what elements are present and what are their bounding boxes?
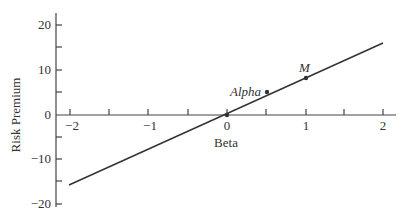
y-tick-label: 0 [45, 107, 52, 122]
x-axis-label: Beta [214, 135, 238, 150]
x-tick-label: −2 [65, 118, 79, 133]
y-tick-label: 20 [38, 17, 51, 32]
alpha-point [265, 90, 269, 94]
y-tick-label: 10 [38, 62, 51, 77]
market-label: M [298, 60, 311, 75]
x-tick-label: 0 [224, 118, 231, 133]
x-tick-label: 1 [303, 118, 310, 133]
y-tick-label: −10 [31, 151, 51, 166]
y-axis-label: Risk Premium [8, 78, 23, 153]
origin-point [225, 113, 229, 117]
alpha-label: Alpha [229, 84, 262, 99]
chart: Alpha M 20 10 0 −10 −20 −2 −1 0 1 2 Beta… [0, 0, 403, 218]
x-tick-label: −1 [143, 118, 157, 133]
y-tick-label: −20 [31, 196, 51, 211]
market-point [304, 76, 308, 80]
x-tick-label: 2 [380, 118, 387, 133]
